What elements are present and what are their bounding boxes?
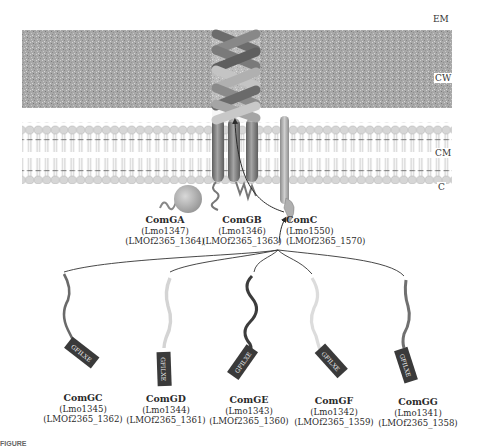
pilin-comge: GFILXE <box>227 276 258 380</box>
label-comgb: ComGB (Lmo1346) (LMOf2365_1363) <box>192 215 292 247</box>
label-comge: ComGE (Lmo1343) (LMOf2365_1360) <box>201 395 297 427</box>
figure-caption: FIGURE <box>0 440 26 447</box>
pilin-comgf: GFILXE <box>311 278 347 378</box>
label-comgd: ComGD (Lmo1344) (LMOf2365_1361) <box>118 394 214 426</box>
label-comc: ComC (Lmo1550) (LMOf2365_1570) <box>286 215 365 247</box>
pilus-helix-bundle <box>212 30 260 122</box>
layer-label-c: C <box>437 182 446 192</box>
comgb-transmembrane <box>212 118 258 210</box>
label-comgc: ComGC (Lmo1345) (LMOf2365_1362) <box>35 393 131 425</box>
pilin-comgd: GFILXE <box>157 278 172 386</box>
motif-label: GFILXE <box>160 357 168 381</box>
pilin-comgc: GFILXE <box>64 274 99 369</box>
layer-label-cm: CM <box>434 148 452 158</box>
layer-label-em: EM <box>432 14 450 24</box>
label-comgf: ComGF (Lmo1342) (LMOf2365_1359) <box>286 396 382 428</box>
connector-lines <box>64 250 404 276</box>
comga-atpase <box>160 185 202 213</box>
pilin-comgg: GFILXE <box>394 280 418 383</box>
layer-label-cw: CW <box>434 73 452 83</box>
label-comgg: ComGG (Lmo1341) (LMOf2365_1358) <box>370 397 466 429</box>
